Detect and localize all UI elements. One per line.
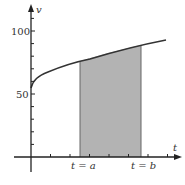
y-tick-label-50: 50 <box>16 89 29 100</box>
y-axis-arrow-icon <box>28 4 34 12</box>
x-axis-label: t <box>173 142 178 153</box>
x-axis-arrow-icon <box>174 154 182 160</box>
label-t-equals-a: t = a <box>71 160 96 171</box>
label-t-equals-b: t = b <box>131 160 156 171</box>
y-tick-label-100: 100 <box>11 26 30 37</box>
area-under-curve-figure: v t 100 50 t = a t = b <box>0 0 185 185</box>
y-axis-label: v <box>36 4 42 15</box>
shaded-area <box>80 45 141 157</box>
